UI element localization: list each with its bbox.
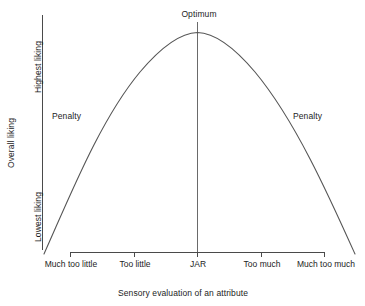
y-axis-title: Overall liking [6,108,16,178]
y-axis-label-lowest-liking: Lowest liking [33,182,43,252]
y-axis-label-highest-liking: Highest liking [33,32,43,102]
liking-curve [44,33,355,255]
x-axis-label-too-much: Too much [226,259,298,270]
annotation-penalty-right: Penalty [293,111,322,121]
x-axis-label-much-too-much: Much too much [292,259,360,270]
x-axis-title: Sensory evaluation of an attribute [72,288,294,298]
x-axis-label-jar: JAR [162,259,234,270]
x-axis-label-too-little: Too little [99,259,171,270]
x-axis-label-much-too-little: Much too little [35,259,107,270]
annotation-optimum: Optimum [168,9,230,19]
annotation-penalty-left: Penalty [52,111,81,121]
chart-figure: Overall liking Highest liking Lowest lik… [0,0,365,306]
